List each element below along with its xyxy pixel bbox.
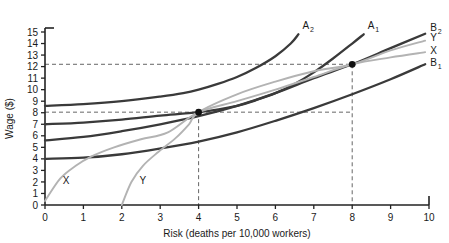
y-tick-label-11: 11 [28, 73, 39, 84]
curve-label-A2: A2 [302, 20, 314, 33]
y-tick-label-7: 7 [32, 119, 38, 130]
x-axis-title: Risk (deaths per 10,000 workers) [163, 228, 310, 239]
curve-X[interactable] [45, 52, 425, 201]
chart-root: 0123456789101112131415012345678910Risk (… [0, 0, 449, 243]
y-tick-label-3: 3 [32, 165, 38, 176]
y-tick-label-13: 13 [27, 50, 39, 61]
inline-curve-label-Y: Y [140, 175, 147, 186]
x-tick-label-3: 3 [157, 212, 163, 223]
curve-label-main-A2: A [302, 20, 309, 31]
y-tick-label-12: 12 [27, 61, 39, 72]
y-tick-label-6: 6 [32, 130, 38, 141]
wage-risk-chart: 0123456789101112131415012345678910Risk (… [0, 0, 449, 243]
x-tick-label-7: 7 [311, 212, 317, 223]
curve-label-sub-A2: 2 [310, 26, 314, 33]
y-tick-label-8: 8 [32, 107, 38, 118]
y-tick-label-1: 1 [32, 188, 38, 199]
y-tick-label-0: 0 [32, 200, 38, 211]
curve-label-main-B1: B [430, 57, 437, 68]
curve-label-Y: Y [430, 32, 437, 43]
x-tick-label-1: 1 [81, 212, 87, 223]
curve-label-A1: A1 [368, 20, 380, 33]
x-tick-label-9: 9 [388, 212, 394, 223]
curve-label-main-X: X [430, 45, 437, 56]
y-tick-label-10: 10 [27, 84, 39, 95]
x-tick-label-2: 2 [119, 212, 125, 223]
y-tick-label-14: 14 [27, 38, 39, 49]
y-tick-label-4: 4 [32, 153, 38, 164]
curve-label-sub-A1: 1 [375, 26, 379, 33]
curve-label-main-Y: Y [430, 32, 437, 43]
equilibrium-low[interactable] [195, 109, 202, 116]
inline-curve-label-X: X [63, 175, 70, 186]
y-tick-label-15: 15 [27, 27, 39, 38]
x-tick-label-5: 5 [234, 212, 240, 223]
curve-label-main-A1: A [368, 20, 375, 31]
x-tick-label-6: 6 [273, 212, 279, 223]
equilibrium-high[interactable] [349, 61, 356, 68]
x-tick-label-0: 0 [42, 212, 48, 223]
x-tick-label-10: 10 [423, 212, 435, 223]
x-tick-label-8: 8 [349, 212, 355, 223]
y-axis-title: Wage ($) [4, 98, 15, 139]
y-tick-label-9: 9 [32, 96, 38, 107]
x-tick-label-4: 4 [196, 212, 202, 223]
curve-label-sub-B2: 2 [438, 28, 442, 35]
curve-label-B1: B1 [430, 57, 442, 70]
curve-label-X: X [430, 45, 437, 56]
y-tick-label-5: 5 [32, 142, 38, 153]
curve-label-sub-B1: 1 [438, 63, 442, 70]
y-tick-label-2: 2 [32, 177, 38, 188]
